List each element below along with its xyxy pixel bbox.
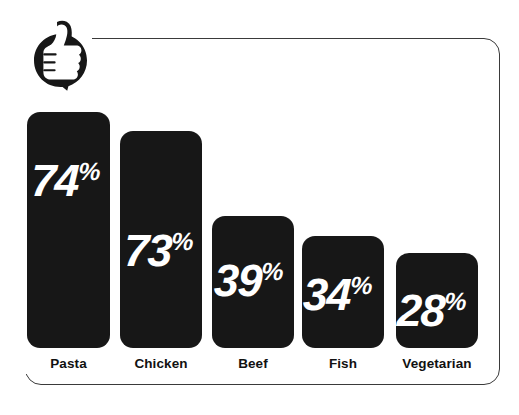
bar-label-beef: Beef	[212, 357, 294, 371]
percent-symbol-chicken: %	[171, 227, 193, 255]
bar-pasta	[27, 112, 110, 348]
bar-chart-plot: 74% Pasta 73% Chicken 39% Beef 34% Fish …	[0, 0, 519, 415]
bar-value-number-chicken: 73	[123, 225, 172, 276]
bar-label-fish: Fish	[302, 357, 384, 371]
percent-symbol-beef: %	[261, 257, 283, 285]
bar-value-number-vegetarian: 28	[396, 285, 445, 336]
bar-value-fish: 34%	[302, 272, 372, 317]
bar-label-pasta: Pasta	[27, 357, 110, 371]
bar-value-beef: 39%	[213, 258, 283, 303]
bar-value-number-pasta: 74	[30, 155, 79, 206]
percent-symbol-pasta: %	[78, 157, 100, 185]
bar-value-pasta: 74%	[30, 158, 100, 203]
bar-value-vegetarian: 28%	[396, 288, 466, 333]
percent-symbol-vegetarian: %	[444, 287, 466, 315]
percent-symbol-fish: %	[350, 271, 372, 299]
bar-label-chicken: Chicken	[120, 357, 202, 371]
bar-label-vegetarian: Vegetarian	[392, 357, 482, 371]
bar-value-number-fish: 34	[302, 269, 351, 320]
bar-value-chicken: 73%	[123, 228, 193, 273]
infographic-root: 74% Pasta 73% Chicken 39% Beef 34% Fish …	[0, 0, 519, 415]
bar-value-number-beef: 39	[213, 255, 262, 306]
